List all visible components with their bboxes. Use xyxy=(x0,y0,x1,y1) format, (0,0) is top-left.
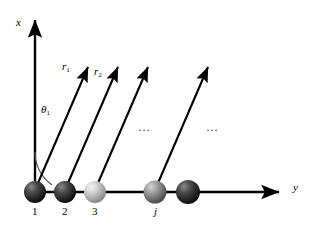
ellipsis-right: … xyxy=(206,121,219,133)
sphere-1-label: 1 xyxy=(32,206,38,217)
diagram-canvas xyxy=(0,0,315,236)
theta-subscript: 1 xyxy=(46,109,50,117)
vector-r2-line xyxy=(65,67,118,190)
sphere-2-shape xyxy=(54,181,76,203)
vector-r2-subscript: 2 xyxy=(98,71,102,79)
sphere-1-shape xyxy=(24,181,46,203)
vector-r2-label: r2 xyxy=(94,66,102,77)
sphere-2-label: 2 xyxy=(62,206,68,217)
sphere-3-shape xyxy=(84,181,106,203)
ellipsis-left: … xyxy=(138,121,151,133)
vector-r1-label: r1 xyxy=(62,61,70,72)
sphere-j-shape xyxy=(144,181,167,204)
x-axis-label: x xyxy=(16,17,21,28)
vector-r1-line xyxy=(35,67,88,190)
figure-container: x y θ1 r1 r2 1 2 3 j … … xyxy=(0,0,315,236)
y-axis-label: y xyxy=(293,182,298,193)
sphere-3-label: 3 xyxy=(92,206,98,217)
position-vectors-group xyxy=(35,67,208,190)
vector-r1-subscript: 1 xyxy=(66,66,70,74)
sphere-j-label: j xyxy=(154,206,157,217)
vector-rj-line xyxy=(155,67,208,190)
theta-label: θ1 xyxy=(41,104,50,115)
sphere-last-shape xyxy=(176,180,200,204)
